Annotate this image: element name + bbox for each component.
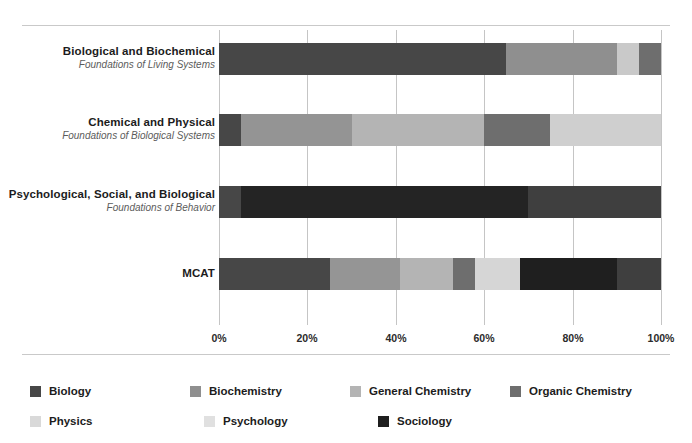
bar-row-label-main: Biological and Biochemical bbox=[0, 44, 215, 58]
legend-item-physics[interactable]: Physics bbox=[30, 415, 204, 427]
legend-item-biology[interactable]: Biology bbox=[30, 385, 190, 397]
bar-row-label-main: Chemical and Physical bbox=[0, 115, 215, 129]
frame-rule-top bbox=[22, 25, 670, 26]
bar-segment-organic-chemistry bbox=[453, 258, 475, 290]
bar-row: MCAT bbox=[0, 258, 692, 330]
chart-container: Biological and BiochemicalFoundations of… bbox=[0, 0, 692, 443]
bar-row-label-main: MCAT bbox=[0, 266, 215, 280]
x-tick-label: 20% bbox=[296, 332, 317, 344]
bar-row-label-sub: Foundations of Living Systems bbox=[0, 58, 215, 71]
legend-item-sociology[interactable]: Sociology bbox=[378, 415, 552, 427]
stacked-bar bbox=[219, 114, 661, 146]
legend: BiologyBiochemistryGeneral ChemistryOrga… bbox=[30, 376, 670, 436]
bar-segment-psychology bbox=[520, 258, 617, 290]
bar-segment-biology bbox=[219, 43, 506, 75]
bar-row-label: Biological and BiochemicalFoundations of… bbox=[0, 44, 215, 71]
legend-label: Organic Chemistry bbox=[529, 385, 632, 397]
legend-label: Biology bbox=[49, 385, 91, 397]
bar-segment-physics bbox=[550, 114, 661, 146]
stacked-bar bbox=[219, 186, 661, 218]
legend-swatch-icon bbox=[378, 416, 389, 427]
bar-segment-biochemistry bbox=[330, 258, 401, 290]
legend-label: Physics bbox=[49, 415, 92, 427]
legend-item-biochemistry[interactable]: Biochemistry bbox=[190, 385, 350, 397]
legend-swatch-icon bbox=[190, 386, 201, 397]
bar-segment-biology bbox=[219, 258, 330, 290]
bar-segment-physics bbox=[617, 43, 639, 75]
bar-segment-biology bbox=[219, 114, 241, 146]
x-axis: 0%20%40%60%80%100% bbox=[0, 332, 692, 348]
x-tick-label: 0% bbox=[211, 332, 226, 344]
legend-label: Sociology bbox=[397, 415, 452, 427]
bar-segment-biochemistry bbox=[241, 114, 352, 146]
bar-segment-general-chemistry bbox=[400, 258, 453, 290]
bar-segment-biochemistry bbox=[506, 43, 617, 75]
bar-row-label: Chemical and PhysicalFoundations of Biol… bbox=[0, 115, 215, 142]
bar-segment-sociology bbox=[617, 258, 661, 290]
bar-row: Chemical and PhysicalFoundations of Biol… bbox=[0, 114, 692, 186]
legend-item-psychology[interactable]: Psychology bbox=[204, 415, 378, 427]
bar-row: Biological and BiochemicalFoundations of… bbox=[0, 43, 692, 115]
bar-segment-psychology bbox=[241, 186, 528, 218]
x-tick-label: 100% bbox=[648, 332, 675, 344]
bar-row-label-sub: Foundations of Behavior bbox=[0, 201, 215, 214]
stacked-bar bbox=[219, 43, 661, 75]
bar-row: Psychological, Social, and BiologicalFou… bbox=[0, 186, 692, 258]
legend-swatch-icon bbox=[350, 386, 361, 397]
legend-swatch-icon bbox=[204, 416, 215, 427]
stacked-bar bbox=[219, 258, 661, 290]
x-tick-label: 40% bbox=[385, 332, 406, 344]
bar-segment-organic-chemistry bbox=[639, 43, 661, 75]
legend-swatch-icon bbox=[30, 416, 41, 427]
x-tick-label: 60% bbox=[473, 332, 494, 344]
bar-segment-biology bbox=[219, 186, 241, 218]
legend-label: Psychology bbox=[223, 415, 288, 427]
bar-row-label: MCAT bbox=[0, 266, 215, 280]
bar-row-label: Psychological, Social, and BiologicalFou… bbox=[0, 187, 215, 214]
bar-row-label-sub: Foundations of Biological Systems bbox=[0, 129, 215, 142]
bar-segment-organic-chemistry bbox=[484, 114, 550, 146]
legend-swatch-icon bbox=[510, 386, 521, 397]
legend-item-general-chemistry[interactable]: General Chemistry bbox=[350, 385, 510, 397]
legend-row: PhysicsPsychologySociology bbox=[30, 406, 670, 436]
frame-rule-bottom bbox=[22, 354, 670, 355]
legend-item-organic-chemistry[interactable]: Organic Chemistry bbox=[510, 385, 670, 397]
legend-label: General Chemistry bbox=[369, 385, 471, 397]
legend-row: BiologyBiochemistryGeneral ChemistryOrga… bbox=[30, 376, 670, 406]
bar-segment-sociology bbox=[528, 186, 661, 218]
bar-row-label-main: Psychological, Social, and Biological bbox=[0, 187, 215, 201]
bar-segment-general-chemistry bbox=[352, 114, 485, 146]
legend-label: Biochemistry bbox=[209, 385, 282, 397]
legend-swatch-icon bbox=[30, 386, 41, 397]
bar-segment-physics bbox=[475, 258, 519, 290]
x-tick-label: 80% bbox=[562, 332, 583, 344]
